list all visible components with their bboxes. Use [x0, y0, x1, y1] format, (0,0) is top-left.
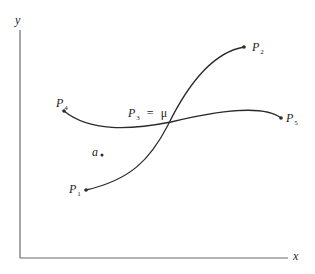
label-P3-mu: P3 = μ — [128, 107, 167, 122]
diagram-canvas — [0, 0, 315, 274]
x-axis-label: x — [293, 250, 298, 262]
label-a: a — [92, 146, 98, 158]
point-P1 — [84, 188, 88, 192]
y-axis-label: y — [15, 14, 20, 26]
point-a — [101, 154, 104, 157]
label-P4: P4 — [56, 97, 68, 112]
point-P2 — [242, 45, 246, 49]
label-P1: P1 — [69, 183, 81, 198]
point-P5 — [279, 116, 283, 120]
curve-P4-P5 — [64, 110, 281, 127]
label-P2: P2 — [252, 41, 264, 56]
label-P5: P5 — [286, 112, 298, 127]
